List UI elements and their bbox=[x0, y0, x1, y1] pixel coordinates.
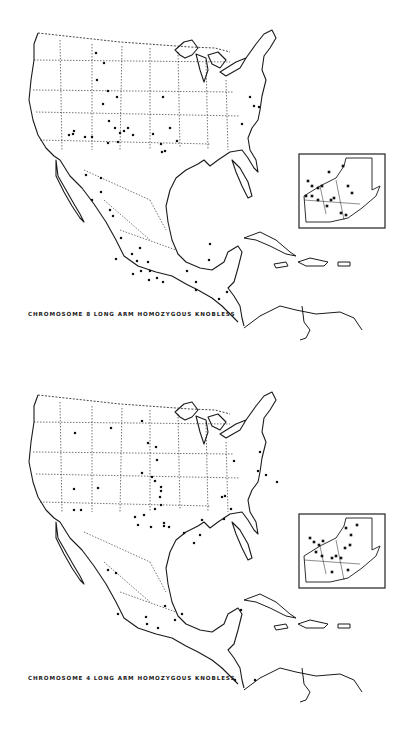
collection-site-marker bbox=[317, 187, 320, 190]
collection-site-marker bbox=[112, 215, 114, 217]
collection-site-marker bbox=[305, 195, 308, 198]
collection-site-marker bbox=[201, 519, 203, 521]
collection-site-marker bbox=[345, 214, 348, 217]
collection-site-marker bbox=[157, 627, 159, 629]
collection-site-marker bbox=[276, 481, 278, 483]
collection-site-marker bbox=[208, 259, 210, 261]
collection-site-marker bbox=[344, 547, 347, 550]
collection-site-marker bbox=[160, 504, 162, 506]
collection-site-marker bbox=[322, 540, 325, 543]
collection-site-marker bbox=[318, 544, 321, 547]
collection-site-marker bbox=[103, 62, 105, 64]
collection-site-marker bbox=[139, 247, 141, 249]
collection-site-marker bbox=[85, 174, 87, 176]
collection-site-marker bbox=[356, 524, 359, 527]
collection-site-marker bbox=[162, 281, 164, 283]
collection-site-marker bbox=[160, 486, 162, 488]
collection-site-marker bbox=[186, 270, 188, 272]
collection-site-marker bbox=[141, 472, 143, 474]
collection-site-marker bbox=[117, 613, 119, 615]
collection-site-marker bbox=[102, 103, 104, 105]
collection-site-marker bbox=[265, 474, 267, 476]
collection-site-marker bbox=[223, 518, 225, 520]
collection-site-marker bbox=[311, 195, 314, 198]
collection-site-marker bbox=[176, 140, 178, 142]
collection-site-marker bbox=[342, 165, 345, 168]
collection-site-marker bbox=[100, 191, 102, 193]
collection-site-marker bbox=[107, 569, 109, 571]
collection-site-marker bbox=[230, 508, 232, 510]
collection-site-marker bbox=[164, 605, 166, 607]
collection-site-marker bbox=[147, 261, 149, 263]
collection-site-marker bbox=[147, 442, 149, 444]
collection-site-marker bbox=[114, 127, 116, 129]
collection-site-marker bbox=[351, 192, 354, 195]
collection-site-marker bbox=[100, 177, 102, 179]
collection-site-marker bbox=[152, 133, 154, 135]
collection-site-marker bbox=[73, 130, 75, 132]
collection-site-marker bbox=[163, 525, 165, 527]
collection-site-marker bbox=[149, 270, 151, 272]
collection-site-marker bbox=[73, 509, 75, 511]
collection-site-marker bbox=[321, 185, 324, 188]
collection-site-marker bbox=[80, 509, 82, 511]
collection-site-marker bbox=[148, 279, 150, 281]
collection-site-marker bbox=[154, 480, 156, 482]
collection-site-marker bbox=[335, 555, 338, 558]
collection-site-marker bbox=[240, 609, 242, 611]
map-chromosome-8: CHROMOSOME 8 LONG ARM HOMOZYGOUS KNOBLES… bbox=[0, 0, 404, 366]
collection-site-marker bbox=[331, 557, 334, 560]
collection-site-marker bbox=[110, 427, 112, 429]
collection-site-marker bbox=[168, 526, 170, 528]
collection-site-marker bbox=[115, 572, 117, 574]
collection-site-marker bbox=[145, 616, 147, 618]
collection-site-marker bbox=[137, 524, 139, 526]
collection-site-marker bbox=[331, 571, 334, 574]
collection-site-marker bbox=[315, 551, 318, 554]
collection-site-marker bbox=[68, 134, 70, 136]
map-chromosome-4: CHROMOSOME 4 LONG ARM HOMOZYGOUS KNOBLES… bbox=[0, 366, 404, 732]
collection-site-marker bbox=[127, 127, 129, 129]
collection-site-marker bbox=[115, 258, 117, 260]
collection-site-marker bbox=[218, 298, 220, 300]
collection-site-marker bbox=[307, 180, 310, 183]
collection-site-marker bbox=[259, 451, 261, 453]
collection-site-marker bbox=[154, 508, 156, 510]
collection-site-marker bbox=[116, 96, 118, 98]
map-caption: CHROMOSOME 8 LONG ARM HOMOZYGOUS KNOBLES… bbox=[28, 311, 235, 317]
collection-site-marker bbox=[340, 557, 343, 560]
collection-site-marker bbox=[209, 243, 211, 245]
collection-site-marker bbox=[123, 130, 125, 132]
collection-site-marker bbox=[347, 185, 350, 188]
collection-site-marker bbox=[107, 142, 109, 144]
collection-site-marker bbox=[132, 134, 134, 136]
collection-site-marker bbox=[174, 619, 176, 621]
collection-site-marker bbox=[169, 127, 171, 129]
collection-site-marker bbox=[72, 133, 74, 135]
collection-site-marker bbox=[328, 171, 331, 174]
collection-site-marker bbox=[317, 199, 320, 202]
collection-site-marker bbox=[326, 205, 329, 208]
collection-site-marker bbox=[221, 496, 223, 498]
collection-site-marker bbox=[333, 197, 336, 200]
collection-site-marker bbox=[97, 487, 99, 489]
collection-site-marker bbox=[91, 136, 93, 138]
collection-site-marker bbox=[73, 488, 75, 490]
collection-site-marker bbox=[321, 555, 324, 558]
collection-site-marker bbox=[160, 143, 162, 145]
collection-site-marker bbox=[146, 623, 148, 625]
collection-site-marker bbox=[257, 470, 259, 472]
collection-site-marker bbox=[109, 209, 111, 211]
collection-site-marker bbox=[134, 516, 136, 518]
collection-site-marker bbox=[241, 123, 243, 125]
collection-site-marker bbox=[136, 260, 138, 262]
collection-site-marker bbox=[253, 105, 255, 107]
collection-site-marker bbox=[164, 150, 166, 152]
collection-site-marker bbox=[140, 270, 142, 272]
collection-site-marker bbox=[156, 277, 158, 279]
collection-site-marker bbox=[349, 544, 352, 547]
collection-site-marker bbox=[199, 534, 201, 536]
collection-site-marker bbox=[311, 185, 314, 188]
collection-site-marker bbox=[193, 542, 195, 544]
collection-site-marker bbox=[84, 136, 86, 138]
